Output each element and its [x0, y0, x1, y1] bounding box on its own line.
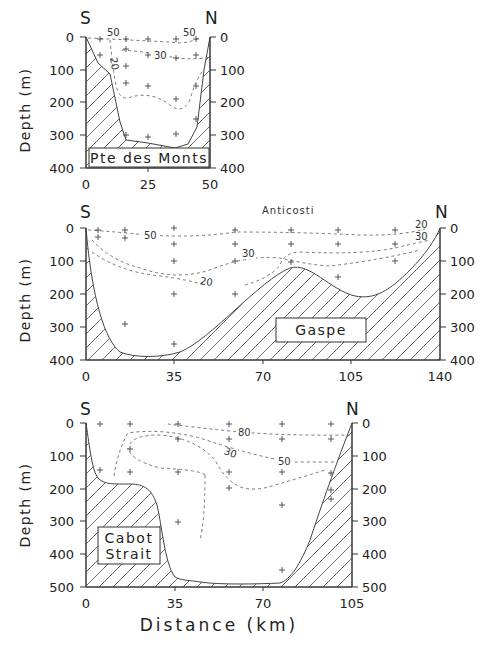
y-tick: 500	[49, 580, 74, 595]
y-tick: 100	[450, 254, 475, 269]
y-tick: 200	[49, 287, 74, 302]
x-tick: 70	[255, 369, 272, 384]
panel-pte-des-monts: S N 0 100 200 300 400 0 100 200 300 400 …	[17, 8, 245, 192]
contour-20	[92, 240, 430, 285]
contour-80	[168, 424, 350, 435]
location-label: Cabot	[105, 530, 154, 546]
x-tick: 105	[340, 596, 365, 611]
y-tick: 0	[450, 221, 458, 236]
location-label: Strait	[105, 546, 152, 562]
y-axis-title: Depth (m)	[17, 462, 33, 547]
hydrographic-sections-figure: S N 0 100 200 300 400 0 100 200 300 400 …	[0, 0, 490, 646]
panel-cabot-strait: S N 0 100 200 300 400 500 0 100 200 300 …	[17, 399, 387, 635]
y-tick: 0	[66, 30, 74, 45]
location-label: Pte des Monts	[90, 150, 208, 166]
y-tick: 400	[450, 353, 475, 368]
y-tick: 100	[220, 63, 245, 78]
north-label: N	[205, 8, 218, 28]
contour-label: 80	[238, 427, 251, 438]
x-tick: 140	[428, 369, 453, 384]
y-tick: 100	[49, 63, 74, 78]
south-label: S	[80, 8, 91, 28]
y-tick: 200	[220, 95, 245, 110]
y-tick: 400	[362, 547, 387, 562]
y-axis-title: Depth (m)	[17, 67, 33, 152]
south-label: S	[80, 202, 91, 222]
y-tick: 400	[220, 161, 245, 176]
y-tick: 200	[49, 95, 74, 110]
y-tick: 300	[362, 514, 387, 529]
y-tick: 100	[362, 449, 387, 464]
contour-50	[88, 229, 425, 236]
north-label: N	[346, 399, 359, 419]
x-tick: 35	[166, 369, 183, 384]
contour-label: 30	[154, 50, 167, 61]
x-axis-title: Distance (km)	[140, 615, 298, 635]
location-label: Gaspe	[295, 322, 347, 338]
x-tick: 0	[82, 369, 90, 384]
y-tick: 0	[362, 416, 370, 431]
x-tick: 50	[202, 177, 219, 192]
y-tick: 500	[362, 580, 387, 595]
y-tick: 300	[220, 128, 245, 143]
y-axis-title: Depth (m)	[17, 257, 33, 342]
contour-label: 50	[144, 230, 157, 241]
y-tick: 200	[450, 287, 475, 302]
contour-label: 30	[242, 248, 255, 259]
x-tick: 35	[167, 596, 184, 611]
panel-gaspe: S N Anticosti 0 100 200 300 400 0 100 20…	[17, 202, 475, 384]
y-tick: 300	[49, 514, 74, 529]
contour-label: 20	[415, 219, 428, 230]
contour-label: 20	[108, 56, 121, 70]
x-tick: 0	[82, 177, 90, 192]
y-tick: 400	[49, 161, 74, 176]
x-tick: 25	[140, 177, 157, 192]
contour-label: 30	[415, 231, 428, 242]
anticosti-label: Anticosti	[262, 205, 314, 216]
contour-label: 50	[107, 27, 120, 38]
y-tick: 0	[220, 30, 228, 45]
y-tick: 400	[49, 353, 74, 368]
y-tick: 0	[66, 221, 74, 236]
x-tick: 70	[255, 596, 272, 611]
y-tick: 200	[49, 482, 74, 497]
y-tick: 400	[49, 547, 74, 562]
contour-label: 50	[278, 456, 291, 467]
y-tick: 300	[49, 128, 74, 143]
south-label: S	[80, 399, 91, 419]
north-label: N	[435, 202, 448, 222]
contour-label: 20	[199, 275, 213, 288]
y-tick: 300	[450, 320, 475, 335]
x-tick: 105	[339, 369, 364, 384]
y-tick: 200	[362, 482, 387, 497]
y-tick: 0	[66, 416, 74, 431]
y-tick: 100	[49, 254, 74, 269]
x-tick: 0	[82, 596, 90, 611]
y-tick: 300	[49, 320, 74, 335]
y-tick: 100	[49, 449, 74, 464]
contour-label: 50	[183, 27, 196, 38]
seafloor-profile	[86, 228, 440, 360]
